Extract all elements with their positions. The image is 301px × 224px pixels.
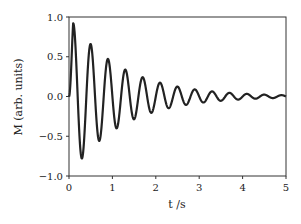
x-tick-label: 4 <box>239 182 245 193</box>
x-tick-label: 3 <box>196 182 202 193</box>
signal-line <box>69 23 286 158</box>
axes-frame <box>69 17 286 176</box>
y-tick-label: 0.5 <box>47 51 63 62</box>
x-tick-label: 2 <box>153 182 159 193</box>
plot-area <box>69 23 286 158</box>
x-axis-ticks: 012345 <box>66 176 289 193</box>
x-tick-label: 1 <box>109 182 115 193</box>
chart: 012345 −1.0−0.50.00.51.0 t /s M (arb. un… <box>0 0 301 224</box>
x-tick-label: 0 <box>66 182 72 193</box>
y-tick-label: −0.5 <box>39 131 63 142</box>
x-tick-label: 5 <box>283 182 289 193</box>
y-tick-label: 1.0 <box>47 12 63 23</box>
y-tick-label: −1.0 <box>39 171 63 182</box>
x-axis-label: t /s <box>168 198 186 211</box>
y-tick-label: 0.0 <box>47 91 63 102</box>
y-axis-ticks: −1.0−0.50.00.51.0 <box>39 12 69 182</box>
y-axis-label: M (arb. units) <box>12 59 25 136</box>
